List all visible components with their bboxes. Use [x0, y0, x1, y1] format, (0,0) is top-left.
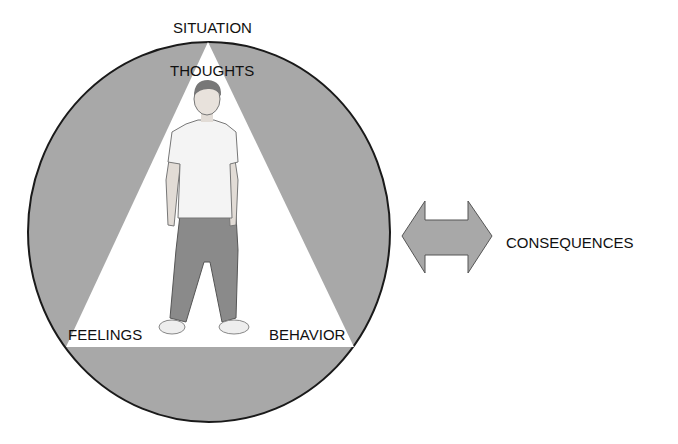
label-behavior: BEHAVIOR: [269, 326, 345, 343]
double-arrow-icon: [402, 201, 492, 273]
label-feelings: FEELINGS: [68, 326, 142, 343]
label-situation: SITUATION: [173, 19, 252, 36]
label-thoughts: THOUGHTS: [170, 62, 254, 79]
label-consequences: CONSEQUENCES: [506, 234, 634, 251]
cbt-diagram: [0, 0, 678, 444]
